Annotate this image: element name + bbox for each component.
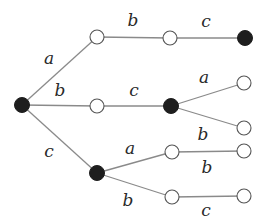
label-n5-n6: a [199,67,209,87]
edge-n11-n12 [172,196,244,197]
node-n6 [237,76,251,90]
node-n9 [165,145,179,159]
label-root-n4: b [55,80,66,100]
node-root [15,98,30,113]
node-n10 [237,144,251,158]
node-n8 [90,166,105,181]
edge-root-n4 [22,105,97,106]
label-n5-n7: b [198,124,209,144]
node-n7 [237,121,251,135]
label-root-n8: c [44,141,54,161]
label-n11-n12: c [201,200,211,220]
label-n9-n10: b [202,157,213,177]
node-n11 [165,190,179,204]
edge-root-n8 [22,105,97,173]
tree-diagram: a b c b c a b c a b b c [0,0,269,223]
edge-n9-n10 [172,151,244,152]
label-n2-n3: c [201,11,211,31]
label-n4-n5: c [129,80,139,100]
node-n3 [238,31,253,46]
label-n8-n11: b [123,190,134,210]
node-n5 [164,99,179,114]
label-n8-n9: a [125,138,135,158]
label-n1-n2: b [128,10,139,30]
node-n4 [90,99,104,113]
label-root-n1: a [44,48,54,68]
edge-labels: a b c b c a b c a b b c [44,10,213,220]
node-n2 [163,31,177,45]
edge-n8-n11 [97,173,172,197]
edge-n1-n2 [97,37,170,38]
node-n1 [90,30,104,44]
node-n12 [237,189,251,203]
